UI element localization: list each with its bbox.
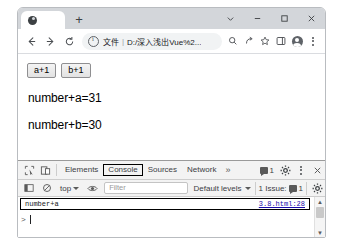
avatar bbox=[292, 36, 303, 47]
console-context-selector[interactable]: top bbox=[57, 184, 82, 193]
console-toolbar: top Filter Default levels 1 Issue: 1 bbox=[18, 180, 325, 197]
address-bar[interactable]: 文件 | D:/深入浅出Vue%2... bbox=[82, 33, 222, 50]
gear-icon bbox=[312, 183, 323, 194]
increment-b-button[interactable]: b+1 bbox=[61, 63, 90, 78]
console-output-area: number+a 3.8.html:28 > ▲ ▼ bbox=[18, 197, 325, 237]
devtools-panel: Elements Console Sources Network » 1 bbox=[18, 160, 325, 237]
devtools-tab-console[interactable]: Console bbox=[103, 164, 142, 176]
chevron-down-icon bbox=[73, 187, 79, 190]
three-dot-menu-icon bbox=[312, 32, 314, 51]
console-prompt-caret: > bbox=[21, 215, 26, 224]
devtools-tab-sources[interactable]: Sources bbox=[143, 164, 182, 176]
page-favicon-icon bbox=[28, 16, 37, 25]
text-cursor bbox=[30, 215, 31, 224]
number-plus-b-text: number+b=30 bbox=[28, 118, 325, 132]
clear-console-icon[interactable] bbox=[39, 180, 55, 196]
browser-window: + bbox=[17, 7, 326, 238]
speech-bubble-icon bbox=[289, 185, 297, 192]
console-message-text: number+a bbox=[25, 200, 259, 208]
url-separator: | bbox=[122, 37, 124, 46]
speech-bubble-icon bbox=[260, 167, 268, 174]
message-count-value: 1 bbox=[270, 166, 274, 175]
minimize-icon[interactable] bbox=[244, 8, 271, 29]
message-count-badge[interactable]: 1 bbox=[257, 166, 277, 175]
three-dot-menu-icon bbox=[300, 161, 302, 180]
gear-icon bbox=[280, 165, 291, 176]
forward-arrow-icon[interactable] bbox=[41, 32, 60, 51]
device-toolbar-icon[interactable] bbox=[37, 162, 53, 178]
devtools-tab-elements[interactable]: Elements bbox=[60, 164, 103, 176]
issues-badge[interactable]: 1 Issue: 1 bbox=[255, 182, 307, 195]
toolbar-divider bbox=[56, 164, 57, 176]
devtools-close-button[interactable] bbox=[309, 162, 325, 178]
browser-toolbar: 文件 | D:/深入浅出Vue%2... bbox=[18, 29, 325, 54]
inspect-element-icon[interactable] bbox=[21, 162, 37, 178]
screenshot-root: + bbox=[0, 0, 343, 244]
devtools-more-tabs-button[interactable]: » bbox=[221, 165, 234, 175]
scrollbar-thumb[interactable] bbox=[316, 207, 324, 218]
console-prompt-row[interactable]: > bbox=[21, 213, 310, 225]
console-context-label: top bbox=[60, 184, 71, 193]
new-tab-button[interactable]: + bbox=[71, 12, 87, 28]
number-plus-a-text: number+a=31 bbox=[28, 91, 325, 105]
console-settings-button[interactable] bbox=[309, 180, 325, 196]
profile-avatar[interactable] bbox=[289, 32, 305, 51]
console-levels-selector[interactable]: Default levels bbox=[192, 184, 253, 193]
site-info-icon[interactable] bbox=[88, 36, 99, 47]
console-filter-placeholder: Filter bbox=[109, 184, 126, 192]
devtools-menu-button[interactable] bbox=[293, 162, 309, 178]
zoom-search-icon[interactable] bbox=[225, 32, 241, 51]
url-scheme-label: 文件 bbox=[103, 36, 119, 47]
issues-count: 1 bbox=[299, 184, 303, 193]
console-sidebar-toggle-icon[interactable] bbox=[21, 180, 37, 196]
devtools-settings-button[interactable] bbox=[277, 162, 293, 178]
page-button-row: a+1 b+1 bbox=[27, 63, 325, 78]
console-message-row[interactable]: number+a 3.8.html:28 bbox=[20, 198, 310, 210]
side-panel-icon[interactable] bbox=[273, 32, 289, 51]
devtools-tabbar: Elements Console Sources Network » 1 bbox=[18, 161, 325, 180]
close-icon bbox=[313, 166, 322, 175]
close-icon[interactable] bbox=[298, 8, 325, 29]
window-controls bbox=[217, 8, 325, 29]
bookmark-star-icon[interactable] bbox=[257, 32, 273, 51]
scrollbar-down-arrow-icon[interactable]: ▼ bbox=[315, 228, 325, 237]
console-scrollbar[interactable]: ▲ ▼ bbox=[314, 197, 325, 237]
scrollbar-up-arrow-icon[interactable]: ▲ bbox=[315, 197, 325, 206]
maximize-icon[interactable] bbox=[271, 8, 298, 29]
back-arrow-icon[interactable] bbox=[22, 32, 41, 51]
console-filter-input[interactable]: Filter bbox=[104, 182, 187, 194]
browser-tab[interactable] bbox=[21, 11, 65, 29]
page-viewport: a+1 b+1 number+a=31 number+b=30 bbox=[18, 54, 325, 162]
console-levels-label: Default levels bbox=[194, 184, 242, 193]
reload-icon[interactable] bbox=[60, 32, 79, 51]
issues-label: 1 Issue: bbox=[259, 184, 287, 193]
devtools-tab-network[interactable]: Network bbox=[182, 164, 221, 176]
tab-search-chevron-down-icon[interactable] bbox=[217, 8, 244, 29]
live-expression-eye-icon[interactable] bbox=[84, 180, 100, 196]
increment-a-button[interactable]: a+1 bbox=[27, 63, 56, 78]
url-text: D:/深入浅出Vue%2... bbox=[127, 36, 201, 47]
tab-strip: + bbox=[18, 8, 325, 29]
share-icon[interactable] bbox=[241, 32, 257, 51]
chevron-down-icon bbox=[245, 187, 251, 190]
console-source-link[interactable]: 3.8.html:28 bbox=[259, 200, 305, 208]
browser-menu-button[interactable] bbox=[305, 32, 321, 51]
